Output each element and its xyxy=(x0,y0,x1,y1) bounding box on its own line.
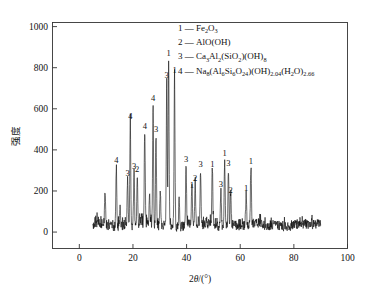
peak-label-1-22: 1 xyxy=(223,148,227,158)
legend-dash-2: — xyxy=(184,37,195,47)
y-tick-label-200: 200 xyxy=(34,186,49,196)
base: AlO(OH) xyxy=(196,37,231,47)
peak-label-3-16: 3 xyxy=(184,154,188,164)
base: Fe xyxy=(196,23,205,33)
legend-formula-2: AlO(OH) xyxy=(196,37,231,47)
x-tick-label-40: 40 xyxy=(182,253,192,263)
peak-label-4-7: 4 xyxy=(143,121,148,131)
peak-label-3-10: 3 xyxy=(154,124,158,134)
legend-formula-4: Na8(Al6Si6O24)(OH)2.04(H2O)2.66 xyxy=(196,66,315,77)
peak-label-4-1: 4 xyxy=(114,155,119,165)
peak-label-2-18: 2 xyxy=(193,173,197,183)
chart-canvas: 02040608010002004006008001000 4343244331… xyxy=(0,0,370,297)
peak-label-3-23: 3 xyxy=(226,158,230,168)
y-tick-label-1000: 1000 xyxy=(29,22,48,32)
y-tick-label-400: 400 xyxy=(34,145,49,155)
xrd-chart-figure: 02040608010002004006008001000 4343244331… xyxy=(0,0,370,297)
sub: 3 xyxy=(215,27,218,34)
sub: 2.66 xyxy=(303,70,314,77)
legend-dash-3: — xyxy=(184,51,195,61)
y-tick-label-600: 600 xyxy=(34,104,49,114)
legend-dash-1: — xyxy=(184,23,195,33)
peak-label-3-21: 3 xyxy=(219,179,223,189)
legend-entry-1: 1—Fe2O3 xyxy=(178,23,218,34)
y-tick-label-800: 800 xyxy=(34,63,49,73)
x-tick-label-20: 20 xyxy=(128,253,138,263)
peak-label-2-6: 2 xyxy=(135,164,139,174)
peak-label-3-19: 3 xyxy=(198,159,202,169)
x-tick-label-100: 100 xyxy=(340,253,355,263)
peak-label-4-4: 4 xyxy=(128,111,133,121)
base: O) xyxy=(294,66,304,76)
peak-label-1-13: 1 xyxy=(166,48,170,58)
sub: 8 xyxy=(263,56,266,63)
legend-dash-4: — xyxy=(184,66,195,76)
legend-key-1: 1 xyxy=(178,23,183,33)
x-tick-label-60: 60 xyxy=(235,253,245,263)
peak-label-1-26: 1 xyxy=(249,156,253,166)
base: (H xyxy=(281,66,291,76)
base: (SiO xyxy=(221,51,239,61)
legend-key-4: 4 xyxy=(178,66,183,76)
x-axis-title: 2θ/(°) xyxy=(189,274,211,285)
peak-label-3-3: 3 xyxy=(125,168,129,178)
peak-label-1-25: 1 xyxy=(244,183,248,193)
legend-key-2: 2 xyxy=(178,37,183,47)
peak-label-2-24: 2 xyxy=(228,185,232,195)
peak-label-3-12: 3 xyxy=(165,70,169,80)
base: Na xyxy=(196,66,207,76)
peak-label-4-9: 4 xyxy=(151,93,156,103)
base: (Al xyxy=(210,66,222,76)
y-tick-label-0: 0 xyxy=(43,227,48,237)
base: )(OH) xyxy=(248,66,270,76)
legend-entry-3: 3—Ca3Al2(SiO2)(OH)8 xyxy=(178,51,267,62)
peak-label-1-14: 1 xyxy=(172,65,176,75)
legend-entry-2: 2—AlO(OH) xyxy=(178,37,230,47)
base: Ca xyxy=(196,51,206,61)
x-tick-label-0: 0 xyxy=(77,253,82,263)
base: )(OH) xyxy=(241,51,263,61)
x-title-post: /(°) xyxy=(198,274,211,285)
x-tick-label-80: 80 xyxy=(289,253,299,263)
peak-label-1-20: 1 xyxy=(210,159,214,169)
y-axis-title: 强度 xyxy=(10,126,21,146)
legend-key-3: 3 xyxy=(178,51,183,61)
